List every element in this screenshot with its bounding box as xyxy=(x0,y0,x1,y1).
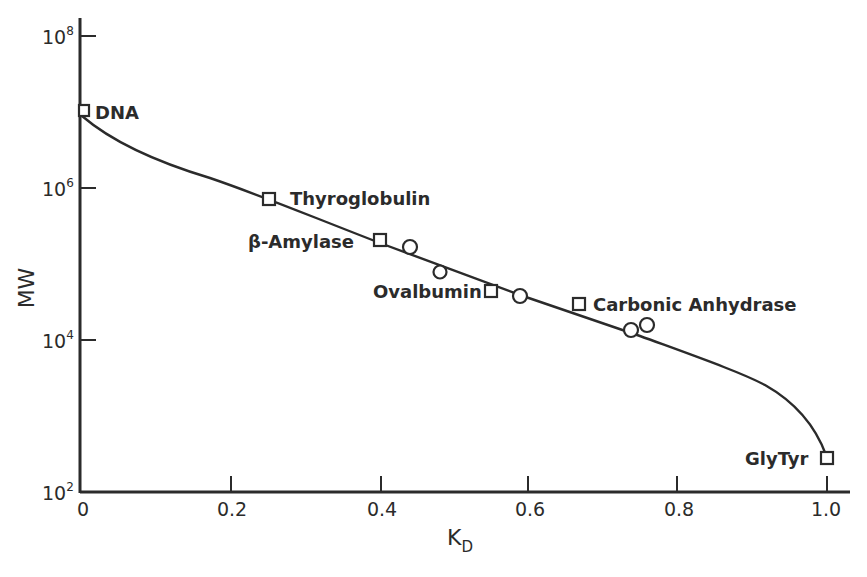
y-tick-label-2: 102 xyxy=(42,480,74,504)
marker-carbonic xyxy=(573,298,585,310)
marker-ovalbumin xyxy=(485,285,497,297)
marker-circle xyxy=(640,318,654,332)
x-tick-label: 0.6 xyxy=(515,498,545,520)
label-glytyr: GlyTyr xyxy=(745,448,809,469)
label-thyroglobulin: Thyroglobulin xyxy=(290,188,430,209)
x-axis-title: KD xyxy=(447,525,473,556)
marker-circle xyxy=(434,266,447,279)
marker-glytyr xyxy=(821,452,833,464)
y-tick-label-8: 108 xyxy=(42,24,74,48)
marker-circle xyxy=(624,323,638,337)
label-amylase: β-Amylase xyxy=(248,231,354,252)
x-tick-label: 0.8 xyxy=(664,498,694,520)
x-tick-label: 0.4 xyxy=(367,498,397,520)
marker-circle xyxy=(513,289,527,303)
chart: 108 106 104 102 0 0.2 0.4 0.6 0.8 1.0 KD… xyxy=(0,0,867,577)
label-dna: DNA xyxy=(95,102,139,123)
y-tick-label-4: 104 xyxy=(42,328,74,352)
x-tick-label: 0 xyxy=(77,498,89,520)
label-ovalbumin: Ovalbumin xyxy=(373,281,482,302)
y-axis-title: MW xyxy=(14,267,39,308)
y-tick-label-6: 106 xyxy=(42,176,74,200)
marker-circle xyxy=(403,240,417,254)
label-carbonic: Carbonic Anhydrase xyxy=(593,294,797,315)
marker-thyroglobulin xyxy=(263,193,275,205)
x-tick-label: 0.2 xyxy=(217,498,247,520)
marker-amylase xyxy=(374,234,386,246)
marker-dna xyxy=(79,105,89,116)
x-tick-label: 1.0 xyxy=(811,498,841,520)
